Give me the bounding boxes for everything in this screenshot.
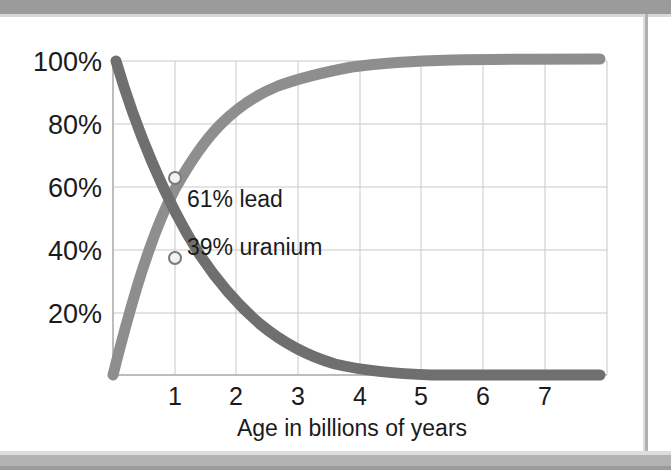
x-tick-label-2: 2	[229, 382, 243, 410]
chart-area: 100% 80% 60% 40% 20% 1 2 3 4 5 6 7 Age i…	[0, 17, 643, 451]
lead-marker-icon	[169, 172, 181, 184]
figure-container: 100% 80% 60% 40% 20% 1 2 3 4 5 6 7 Age i…	[0, 0, 671, 474]
y-tick-label-40: 40%	[48, 236, 102, 266]
x-tick-label-5: 5	[414, 382, 428, 410]
uranium-marker-icon	[169, 252, 181, 264]
decay-curve-chart: 100% 80% 60% 40% 20% 1 2 3 4 5 6 7 Age i…	[0, 17, 643, 451]
x-axis-title: Age in billions of years	[237, 415, 467, 441]
y-tick-label-20: 20%	[48, 299, 102, 329]
x-tick-label-1: 1	[168, 382, 182, 410]
annotation-uranium-label: 39% uranium	[187, 234, 323, 260]
y-tick-label-60: 60%	[48, 173, 102, 203]
scan-band-top	[0, 0, 671, 14]
x-tick-label-7: 7	[538, 382, 552, 410]
annotation-lead-label: 61% lead	[187, 186, 283, 212]
scan-band-bottom	[0, 455, 671, 466]
x-tick-label-4: 4	[353, 382, 367, 410]
scan-band-bottom-edge	[0, 466, 671, 470]
y-tick-label-100: 100%	[33, 47, 102, 77]
y-tick-label-80: 80%	[48, 110, 102, 140]
x-tick-label-6: 6	[476, 382, 490, 410]
scan-edge-right	[645, 14, 648, 455]
x-tick-label-3: 3	[291, 382, 305, 410]
